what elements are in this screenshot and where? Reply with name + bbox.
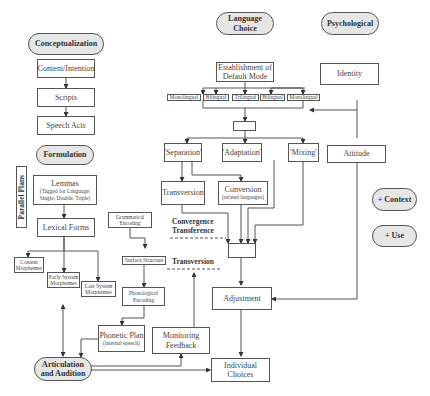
psychological-header: Psychological (321, 12, 379, 35)
phonological-encoding-box: Phonological Encoding (122, 287, 165, 306)
attitude-box: Attitude (327, 145, 386, 163)
convergence-transference-label: Convergence Transference (172, 218, 232, 235)
mode-monolingual-1: Monolingual (167, 94, 201, 101)
language-choice-header: Language Choice (216, 12, 274, 35)
phonetic-plan-box: Phonetic Plan(internal speech) (98, 325, 145, 352)
default-mode-box: Establishment of Default Mode (216, 62, 274, 82)
adjustment-box: Adjustment (212, 287, 272, 310)
surface-structure-box: Surface Structure (122, 256, 166, 265)
mode-trilingual: Trilingual (232, 94, 259, 101)
content-morphemes-box: Content Morphemes (14, 257, 44, 273)
grammatical-encoding-box: Grammatical Encoding (108, 212, 152, 228)
phonetic-plan-title: Phonetic Plan (99, 331, 143, 340)
formulation-header: Formulation (36, 145, 94, 165)
content-intention-box: Content/Intention (37, 59, 95, 78)
context-header: + Context (372, 188, 417, 211)
mode-bilingual-1: Bilingual (203, 94, 229, 101)
lexical-forms-box: Lexical Forms (37, 218, 95, 237)
lemmas-subtitle: (Tagged for Language: Single, Double, Tr… (34, 188, 96, 201)
conversion-box: Conversion(related languages) (218, 181, 268, 205)
mode-bilingual-2: Bilingual (260, 94, 285, 101)
articulation-audition-header: Articulation and Audition (34, 357, 92, 381)
parallel-plans-label: Parallel Plans (16, 166, 27, 228)
conceptualization-header: Conceptualization (28, 33, 104, 55)
conversion-subtitle: (related languages) (222, 194, 264, 200)
adaptation-box: 'Adaptation' (222, 143, 262, 162)
separation-box: 'Separation' (164, 143, 202, 162)
lemmas-title: Lemmas (51, 179, 79, 188)
scripts-box: Scripts (37, 88, 95, 107)
speech-acts-box: Speech Acts (37, 116, 95, 135)
phonetic-plan-subtitle: (internal speech) (99, 340, 143, 346)
mode-monolingual-2: Monolingual (287, 94, 320, 101)
monitoring-feedback-box: Monitoring Feedback (152, 327, 210, 354)
individual-choices-box: Individual Choices (211, 358, 270, 382)
late-system-morphemes-box: Late System Morphemes (81, 281, 116, 297)
transversion-annotation: Transversion (172, 258, 214, 267)
lemmas-box: Lemmas(Tagged for Language: Single, Doub… (33, 175, 97, 205)
mode-join-box (233, 121, 256, 131)
merge-box (228, 243, 256, 258)
mixing-box: 'Mixing' (288, 143, 319, 162)
conversion-title: Conversion (225, 185, 262, 194)
identity-box: Identity (320, 63, 379, 85)
early-system-morphemes-box: Early System Morphemes (47, 272, 80, 288)
use-header: + Use (372, 225, 417, 247)
transversion-box: Transversion (161, 181, 205, 205)
